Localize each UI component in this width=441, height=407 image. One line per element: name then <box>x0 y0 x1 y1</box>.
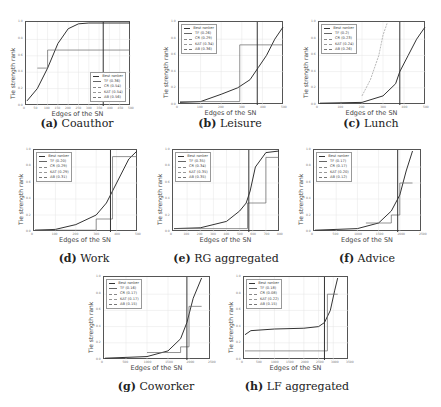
caption-letter: (a) <box>40 117 58 130</box>
legend-swatch <box>93 97 101 98</box>
legend-swatch <box>324 28 330 29</box>
legend-swatch <box>93 87 101 88</box>
y-tick-label: 0.2 <box>306 213 311 217</box>
legend-swatch <box>109 299 117 300</box>
legend: Best rankerTF (0.26)CR (0.29)KAT (0.34)A… <box>181 24 217 54</box>
legend-swatch <box>39 177 47 178</box>
caption-text: LF aggregated <box>263 380 349 393</box>
caption-letter: (e) <box>173 252 190 265</box>
caption-letter: (h) <box>245 380 263 393</box>
y-axis-label: Tie strength rank <box>227 302 234 353</box>
legend: Best rankerTF (0.17)CR (0.17)KAT (0.20)A… <box>316 152 352 182</box>
legend-swatch <box>184 44 192 45</box>
legend-swatch <box>324 33 332 34</box>
subplot-caption: (d) Work <box>24 252 144 265</box>
legend-swatch <box>249 304 257 305</box>
y-tick-label: 0.6 <box>311 52 316 56</box>
y-tick-label: 0.0 <box>165 229 170 233</box>
caption-text: Leisure <box>216 117 261 130</box>
y-tick-label: 1.0 <box>171 19 176 23</box>
caption-text: Coworker <box>136 380 194 393</box>
y-tick-label: 0.2 <box>311 85 316 89</box>
y-tick-label: 1.0 <box>236 274 241 278</box>
legend-label: AB (0.35) <box>189 175 206 180</box>
x-axis-label: Edges of the SN <box>33 236 137 244</box>
x-axis-label: Edges of the SN <box>172 236 279 244</box>
y-tick-label: 0.4 <box>236 324 241 328</box>
caption-text: Coauthor <box>58 117 114 130</box>
legend: Best rankerTF (0.36)CR (0.54)KAT (0.54)A… <box>90 72 126 102</box>
legend-entry: AB (0.15) <box>249 302 279 307</box>
legend-swatch <box>319 177 327 178</box>
legend-swatch <box>109 283 115 284</box>
legend-swatch <box>93 92 101 93</box>
legend-swatch <box>184 28 190 29</box>
caption-letter: (c) <box>343 117 360 130</box>
legend-swatch <box>178 161 186 162</box>
y-tick-label: 0.0 <box>306 229 311 233</box>
y-axis-label: Tie strength rank <box>9 48 16 99</box>
y-tick-label: 0.2 <box>96 340 101 344</box>
y-tick-label: 0.0 <box>236 357 241 361</box>
caption-letter: (b) <box>198 117 216 130</box>
y-tick-label: 0.4 <box>96 324 101 328</box>
y-tick-label: 0.6 <box>171 52 176 56</box>
y-tick-label: 0.0 <box>18 103 23 107</box>
legend-swatch <box>109 304 117 305</box>
y-tick-label: 0.4 <box>26 196 31 200</box>
subplot-caption: (e) RG aggregated <box>166 252 286 265</box>
y-tick-label: 0.6 <box>165 180 170 184</box>
y-tick-label: 0.8 <box>236 291 241 295</box>
legend-swatch <box>178 177 186 178</box>
legend-entry: AB (0.12) <box>319 175 349 180</box>
y-tick-label: 0.4 <box>165 196 170 200</box>
legend-label: AB (0.26) <box>335 47 352 52</box>
legend-swatch <box>249 288 257 289</box>
y-tick-label: 0.6 <box>96 307 101 311</box>
legend-swatch <box>319 161 327 162</box>
legend-swatch <box>324 39 332 40</box>
y-axis-label: Tie strength rank <box>156 174 163 225</box>
y-tick-label: 0.8 <box>96 291 101 295</box>
legend-label: AB (0.15) <box>260 302 277 307</box>
y-axis-label: Tie strength rank <box>302 47 309 98</box>
subplot-caption: (g) Coworker <box>96 380 216 393</box>
y-tick-label: 0.0 <box>171 102 176 106</box>
legend-label: AB (0.31) <box>50 175 67 180</box>
caption-letter: (g) <box>118 380 136 393</box>
legend-swatch <box>39 167 47 168</box>
subplot-caption: (b) Leisure <box>170 117 290 130</box>
y-tick-label: 0.8 <box>306 163 311 167</box>
legend-swatch <box>249 283 255 284</box>
legend-label: AB (0.36) <box>195 47 212 52</box>
legend-swatch <box>184 33 192 34</box>
caption-letter: (d) <box>59 252 77 265</box>
x-axis-label: Edges of the SN <box>178 109 283 117</box>
y-tick-label: 1.0 <box>306 147 311 151</box>
y-tick-label: 0.0 <box>26 229 31 233</box>
caption-text: RG aggregated <box>191 252 279 265</box>
y-tick-label: 0.6 <box>306 180 311 184</box>
y-tick-label: 0.8 <box>311 36 316 40</box>
y-tick-label: 0.0 <box>311 102 316 106</box>
y-tick-label: 0.0 <box>96 357 101 361</box>
subplot-caption: (a) Coauthor <box>17 117 137 130</box>
legend-entry: AB (0.31) <box>39 175 69 180</box>
y-tick-label: 0.2 <box>165 213 170 217</box>
y-tick-label: 1.0 <box>18 19 23 23</box>
legend-swatch <box>93 76 99 77</box>
legend-swatch <box>93 81 101 82</box>
caption-text: Advice <box>354 252 395 265</box>
caption-letter: (f) <box>339 252 354 265</box>
subplot-caption: (h) LF aggregated <box>237 380 357 393</box>
y-tick-label: 1.0 <box>26 147 31 151</box>
legend-swatch <box>109 288 117 289</box>
legend-swatch <box>319 167 327 168</box>
subplot-caption: (c) Lunch <box>311 117 431 130</box>
legend-swatch <box>319 156 325 157</box>
legend-entry: AB (0.35) <box>178 175 208 180</box>
legend-swatch <box>184 39 192 40</box>
y-tick-label: 1.0 <box>96 274 101 278</box>
y-tick-label: 0.8 <box>18 36 23 40</box>
legend-swatch <box>184 49 192 50</box>
